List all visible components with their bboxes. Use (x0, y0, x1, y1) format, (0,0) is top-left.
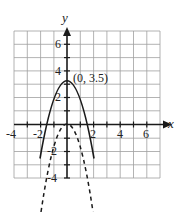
y-tick-label: 2 (55, 90, 61, 104)
x-axis-label: x (167, 116, 174, 131)
y-tick-label: 4 (55, 64, 61, 78)
x-tick-label: 6 (143, 127, 149, 141)
y-tick-label: -2 (47, 144, 57, 158)
graph: y x (0, 3.5) -4 -2 2 4 6 6 4 2 -2 -4 (0, 0, 180, 220)
y-axis-label: y (60, 10, 68, 25)
y-axis-arrow-icon (63, 27, 71, 36)
x-tick-label: -2 (33, 127, 43, 141)
x-tick-label: 2 (90, 127, 96, 141)
grid (14, 31, 160, 178)
y-tick-label: -4 (47, 171, 57, 185)
x-tick-label: 4 (117, 127, 123, 141)
vertex-label: (0, 3.5) (73, 71, 108, 85)
x-tick-label: -4 (6, 127, 16, 141)
y-tick-label: 6 (55, 37, 61, 51)
